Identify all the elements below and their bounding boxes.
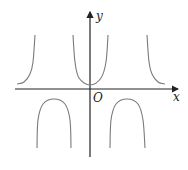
branch-lower-right <box>110 99 145 148</box>
y-axis-label: y <box>95 9 103 23</box>
origin-label: O <box>93 91 103 105</box>
function-graph: y x O <box>0 0 188 170</box>
branch-upper-left <box>17 35 35 84</box>
branch-upper-right <box>147 35 165 84</box>
branch-lower-left <box>37 99 71 148</box>
curve-branches <box>17 35 165 148</box>
x-axis-label: x <box>173 90 180 104</box>
